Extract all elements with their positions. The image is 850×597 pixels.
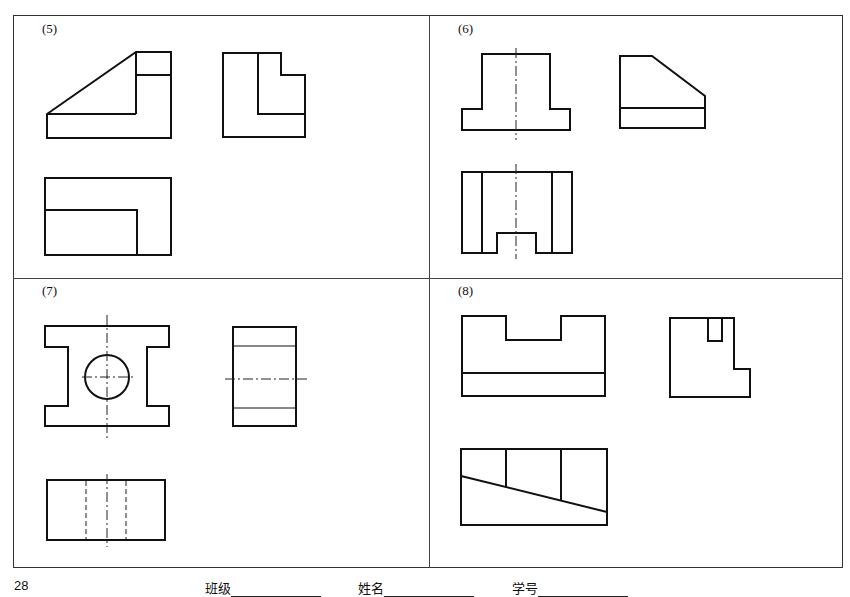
page-number: 28 (14, 578, 28, 593)
panel-5-top-view (45, 178, 171, 255)
panel-8-side-view (670, 318, 750, 397)
name-input-line[interactable] (384, 582, 474, 597)
panel-6-side-view (620, 56, 705, 128)
class-label: 班级 (205, 581, 231, 596)
panel-7-top-view (47, 480, 165, 540)
class-field: 班级 (205, 578, 321, 597)
orthographic-drawings (0, 0, 850, 597)
panel-7-side-view (233, 327, 296, 426)
name-label: 姓名 (358, 581, 384, 596)
student-id-input-line[interactable] (538, 582, 628, 597)
panel-6-top-view (462, 172, 572, 253)
class-input-line[interactable] (231, 582, 321, 597)
panel-8-front-view (462, 316, 605, 396)
panel-8-top-view (461, 449, 607, 525)
panel-5-side-view (223, 53, 305, 137)
panel-5-front-view (47, 52, 171, 138)
student-id-field: 学号 (512, 578, 628, 597)
student-id-label: 学号 (512, 581, 538, 596)
name-field: 姓名 (358, 578, 474, 597)
